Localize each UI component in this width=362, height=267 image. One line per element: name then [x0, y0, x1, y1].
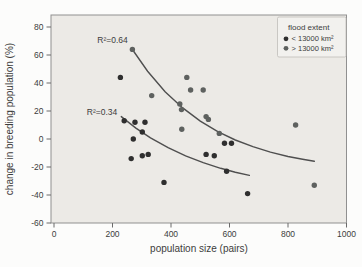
- data-point: [146, 152, 151, 157]
- r2-label-lower: R²=0.34: [87, 107, 118, 117]
- y-tick-label: -60: [31, 218, 44, 228]
- x-tick-label: 400: [164, 229, 178, 239]
- data-point: [131, 136, 136, 141]
- y-axis-label: change in breeding population (%): [4, 43, 15, 195]
- x-tick-label: 1000: [337, 229, 356, 239]
- data-point: [229, 141, 234, 146]
- x-tick-label: 600: [222, 229, 236, 239]
- x-axis-label: population size (pairs): [150, 243, 248, 254]
- data-point: [217, 131, 222, 136]
- x-tick-label: 0: [52, 229, 57, 239]
- legend-dot-lt13000-icon: [284, 36, 289, 41]
- data-point: [224, 169, 229, 174]
- data-point: [129, 156, 134, 161]
- data-point: [245, 191, 250, 196]
- data-point: [130, 47, 135, 52]
- data-point: [206, 117, 211, 122]
- data-point: [293, 122, 298, 127]
- scatter-figure: 02004006008001000806040200-20-40-60 R²=0…: [0, 0, 362, 267]
- legend-item-gt13000: > 13000 km²: [292, 44, 334, 53]
- data-point: [161, 180, 166, 185]
- x-tick-label: 800: [281, 229, 295, 239]
- y-tick-label: 0: [39, 134, 44, 144]
- scatter-plot: 02004006008001000806040200-20-40-60 R²=0…: [0, 0, 362, 267]
- data-point: [222, 141, 227, 146]
- y-tick-label: -20: [31, 162, 44, 172]
- y-tick-label: 40: [34, 78, 44, 88]
- legend: flood extent < 13000 km² > 13000 km²: [278, 17, 347, 57]
- data-point: [132, 120, 137, 125]
- legend-item-lt13000: < 13000 km²: [292, 34, 334, 43]
- data-point: [203, 152, 208, 157]
- data-point: [140, 129, 145, 134]
- data-point: [140, 153, 145, 158]
- data-point: [179, 127, 184, 132]
- y-tick-label: 60: [34, 50, 44, 60]
- data-point: [312, 183, 317, 188]
- data-point: [188, 87, 193, 92]
- legend-title: flood extent: [288, 23, 330, 32]
- data-point: [212, 153, 217, 158]
- data-point: [184, 75, 189, 80]
- data-point: [118, 75, 123, 80]
- data-point: [122, 118, 127, 123]
- y-tick-label: -40: [31, 190, 44, 200]
- y-tick-label: 20: [34, 106, 44, 116]
- r2-label-upper: R²=0.64: [97, 35, 128, 45]
- data-point: [179, 107, 184, 112]
- x-tick-label: 200: [105, 229, 119, 239]
- data-point: [149, 93, 154, 98]
- legend-dot-gt13000-icon: [284, 46, 289, 51]
- y-tick-label: 80: [34, 22, 44, 32]
- data-point: [142, 120, 147, 125]
- data-point: [177, 101, 182, 106]
- data-point: [201, 87, 206, 92]
